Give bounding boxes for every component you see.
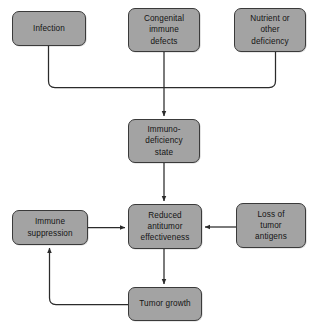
node-immunodeficiency-state-label: Immuno- deficiency state bbox=[142, 124, 185, 158]
node-infection[interactable]: Infection bbox=[12, 11, 86, 46]
node-reduced-antitumor-effectiveness-label: Reduced antitumor effectiveness bbox=[138, 210, 193, 244]
node-tumor-growth[interactable]: Tumor growth bbox=[128, 287, 202, 321]
node-immunodeficiency-state[interactable]: Immuno- deficiency state bbox=[128, 119, 200, 163]
node-loss-of-tumor-antigens-label: Loss of tumor antigens bbox=[252, 209, 290, 243]
edge-infection-to-bus bbox=[49, 46, 165, 88]
node-immune-suppression-label: Immune suppression bbox=[24, 216, 75, 238]
node-immune-suppression[interactable]: Immune suppression bbox=[12, 210, 88, 245]
node-infection-label: Infection bbox=[30, 23, 68, 34]
node-tumor-growth-label: Tumor growth bbox=[136, 298, 193, 309]
node-congenital-immune-defects[interactable]: Congenital immune defects bbox=[128, 8, 200, 52]
node-nutrient-or-other-deficiency[interactable]: Nutrient or other deficiency bbox=[234, 8, 306, 52]
node-congenital-immune-defects-label: Congenital immune defects bbox=[141, 13, 187, 47]
node-nutrient-or-other-deficiency-label: Nutrient or other deficiency bbox=[247, 13, 292, 47]
edge-tumor-growth-to-immune-suppression bbox=[50, 248, 129, 305]
flow-diagram: Infection Congenital immune defects Nutr… bbox=[0, 0, 316, 329]
edge-nutrient-to-bus bbox=[164, 52, 276, 88]
node-reduced-antitumor-effectiveness[interactable]: Reduced antitumor effectiveness bbox=[128, 204, 202, 249]
node-loss-of-tumor-antigens[interactable]: Loss of tumor antigens bbox=[236, 203, 306, 248]
